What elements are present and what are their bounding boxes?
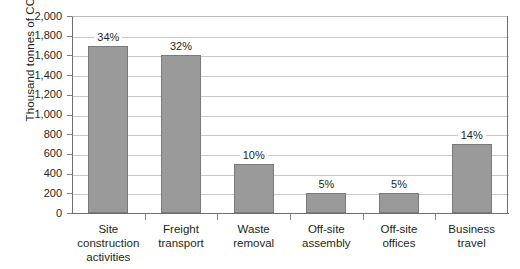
- x-axis-category-label-line: construction: [72, 236, 145, 250]
- bar-value-label: 34%: [94, 32, 122, 43]
- x-axis-category-label-line: Business: [435, 222, 508, 236]
- x-axis-category-label-line: travel: [435, 236, 508, 250]
- y-tick-label: 1,600: [0, 50, 62, 61]
- x-axis-category-label-line: removal: [217, 236, 290, 250]
- bar[interactable]: [234, 164, 274, 213]
- x-axis-category-label-line: transport: [145, 236, 218, 250]
- bar[interactable]: [88, 46, 128, 213]
- x-axis-category-label: Businesstravel: [435, 222, 508, 250]
- y-tick-label: 1,400: [0, 70, 62, 81]
- bars-layer: 34%32%10%5%5%14%: [72, 16, 508, 213]
- x-axis-category-label-line: Site: [72, 222, 145, 236]
- x-axis-category-label: Siteconstructionactivities: [72, 222, 145, 264]
- x-axis-category-label: Freighttransport: [145, 222, 218, 250]
- bar[interactable]: [161, 55, 201, 213]
- bar-slot: 32%: [145, 16, 218, 213]
- x-axis-category-label-line: Freight: [145, 222, 218, 236]
- bar-slot: 5%: [363, 16, 436, 213]
- category-separator-tick: [145, 214, 146, 220]
- category-separator-tick: [363, 214, 364, 220]
- x-axis-category-labels: SiteconstructionactivitiesFreighttranspo…: [72, 222, 508, 268]
- bar-value-label: 14%: [458, 130, 486, 141]
- y-axis-ticks: 02004006008001,0001,2001,4001,6001,8002,…: [0, 0, 68, 269]
- bar-value-label: 10%: [240, 150, 268, 161]
- y-tick-label: 200: [0, 188, 62, 199]
- x-axis-category-label-line: Waste: [217, 222, 290, 236]
- x-axis-category-label: Off-siteoffices: [363, 222, 436, 250]
- x-axis-category-label-line: Off-site: [363, 222, 436, 236]
- category-separator-tick: [435, 214, 436, 220]
- y-tick-label: 2,000: [0, 11, 62, 22]
- bar-value-label: 5%: [315, 179, 337, 190]
- category-separator-tick: [290, 214, 291, 220]
- y-tick-label: 600: [0, 148, 62, 159]
- bar-value-label: 32%: [167, 41, 195, 52]
- y-tick-label: 1,200: [0, 89, 62, 100]
- bar-slot: 14%: [435, 16, 508, 213]
- bar[interactable]: [452, 144, 492, 213]
- bar-slot: 10%: [217, 16, 290, 213]
- bar[interactable]: [306, 193, 346, 213]
- y-tick-label: 1,800: [0, 30, 62, 41]
- y-tick-label: 400: [0, 168, 62, 179]
- bar-slot: 34%: [72, 16, 145, 213]
- bar[interactable]: [379, 193, 419, 213]
- bar-slot: 5%: [290, 16, 363, 213]
- x-axis-category-label-line: assembly: [290, 236, 363, 250]
- bar-value-label: 5%: [388, 179, 410, 190]
- y-tick-label: 0: [0, 208, 62, 219]
- x-axis-category-label: Wasteremoval: [217, 222, 290, 250]
- x-axis-category-label-line: Off-site: [290, 222, 363, 236]
- x-axis-category-label: Off-siteassembly: [290, 222, 363, 250]
- y-tick-label: 800: [0, 129, 62, 140]
- bar-chart: Thousand tonnes of CO2 02004006008001,00…: [0, 0, 520, 269]
- x-axis-category-label-line: offices: [363, 236, 436, 250]
- category-separator-tick: [217, 214, 218, 220]
- y-tick-label: 1,000: [0, 109, 62, 120]
- x-axis-category-label-line: activities: [72, 250, 145, 264]
